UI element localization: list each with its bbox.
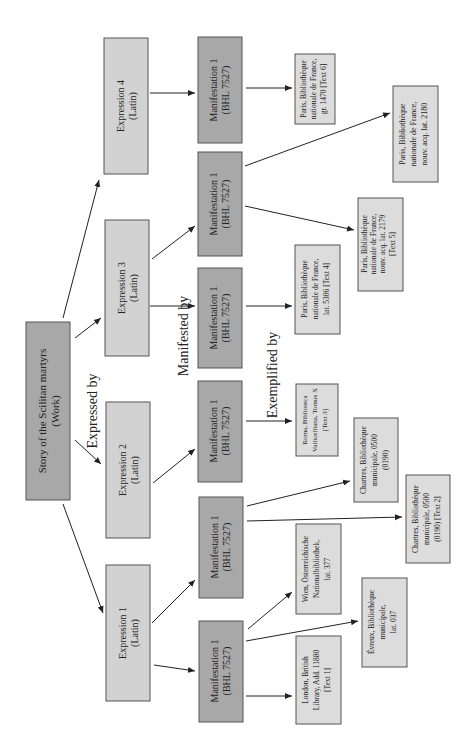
manifestation-label: Manifestation 1: [208, 172, 219, 235]
edge-e1-m1a: [154, 665, 195, 671]
item-node-roma: Roma, Biblioteca Vallicelliana, Tomus X …: [296, 384, 338, 456]
expression-node-4: Expression 4 (Latin): [104, 38, 148, 174]
item-line: (0190) [Text 2]: [433, 496, 442, 542]
item-line: Vallicelliana, Tomus X: [311, 388, 319, 452]
item-line: Nationalbibliothek,: [312, 540, 321, 598]
item-node-paris-5306: Paris, Bibliothèque nationale de France,…: [295, 245, 340, 334]
manifestation-label: Manifestation 1: [209, 639, 220, 702]
item-line: municipale,: [378, 604, 387, 639]
item-line: lat. 5306 [Text 4]: [322, 263, 331, 315]
expression-language: (Latin): [129, 456, 141, 484]
edge-e2-m2: [153, 449, 195, 483]
expression-language: (Latin): [128, 274, 140, 302]
manifestation-bhl: (BHL 7527): [220, 407, 232, 456]
item-line: nationale de France,: [309, 59, 318, 120]
item-line: Paris, Bibliothèque: [398, 103, 407, 165]
item-line: Chartres, Bibliothèque: [411, 484, 420, 553]
item-line: Évreux, Bibliothèque: [366, 589, 376, 654]
manifestation-node-e3a: Manifestation 1 (BHL 7527): [198, 268, 242, 368]
edge-m3b-paris2179: [245, 206, 354, 230]
work-node: Story of the Scilitan martyrs (Work): [26, 322, 70, 500]
manifestation-label: Manifestation 1: [208, 58, 219, 121]
manifestation-label: Manifestation 1: [208, 399, 219, 462]
expression-node-3: Expression 3 (Latin): [105, 220, 149, 356]
expression-label: Expression 1: [117, 607, 128, 659]
item-line: lat. 377: [323, 558, 332, 581]
item-line: (0190): [381, 450, 390, 470]
item-line: nouv. acq. lat. 2180: [420, 103, 429, 166]
item-line: nouv. acq. lat. 2179: [378, 214, 387, 273]
item-line: Paris, Bibliothèque: [300, 260, 309, 318]
edge-work-e1: [63, 504, 103, 613]
expression-node-1: Expression 1 (Latin): [106, 565, 150, 701]
item-line: [Text 5]: [388, 232, 397, 256]
item-line: Library, Add. 11880: [312, 650, 321, 711]
work-type: (Work): [49, 395, 62, 427]
manifestation-label: Manifestation 1: [209, 515, 220, 578]
relation-label-manifested-by: Manifested by: [176, 296, 191, 376]
item-line: Roma, Biblioteca: [301, 395, 309, 445]
expression-label: Expression 3: [116, 262, 127, 314]
item-line: London, British: [301, 656, 310, 704]
manifestation-bhl: (BHL 7527): [220, 66, 232, 115]
manifestation-node-e4: Manifestation 1 (BHL 7527): [198, 37, 242, 143]
item-node-chartres-text2: Chartres, Bibliothèque municipale, 0500 …: [406, 475, 450, 563]
edge-m1b-chartres: [247, 481, 350, 506]
edge-e3-m3a: [152, 226, 195, 259]
expression-label: Expression 4: [115, 80, 126, 132]
frbr-diagram: Expressed by Manifested by Exemplified b…: [0, 0, 474, 756]
expression-language: (Latin): [129, 619, 141, 647]
item-line: nationale de France,: [409, 102, 418, 167]
manifestation-bhl: (BHL 7527): [220, 180, 232, 229]
manifestation-label: Manifestation 1: [208, 286, 219, 349]
relation-label-expressed-by: Expressed by: [85, 373, 100, 448]
item-line: municipale, 0500: [422, 493, 431, 545]
item-line: [Text 3]: [321, 409, 329, 431]
edge-m1a-wien: [248, 592, 292, 629]
expression-node-2: Expression 2 (Latin): [106, 402, 150, 538]
edge-e1-m1b: [152, 580, 195, 623]
item-line: [Text 1]: [323, 668, 332, 692]
expression-language: (Latin): [127, 92, 139, 120]
manifestation-node-e1a: Manifestation 1 (BHL 7527): [199, 621, 243, 722]
manifestation-bhl: (BHL 7527): [221, 647, 233, 696]
item-line: gr. 1470 [Text 6]: [319, 64, 328, 114]
item-line: Paris, Bibliothèque: [299, 60, 308, 118]
item-line: municipale, 0500: [370, 434, 379, 486]
item-node-wien: Wien, Österreichische Nationalbibliothek…: [296, 524, 341, 614]
item-node-paris-2179: Paris, Bibliothèque nationale de France,…: [358, 198, 403, 291]
expression-label: Expression 2: [117, 444, 128, 496]
item-node-paris-1470: Paris, Bibliothèque nationale de France,…: [295, 54, 335, 124]
item-node-london: London, British Library, Add. 11880 [Tex…: [296, 636, 341, 724]
item-node-evreux: Évreux, Bibliothèque municipale, lat. 03…: [362, 578, 407, 667]
item-line: Chartres, Bibliothèque: [359, 425, 368, 494]
item-line: nationale de France,: [311, 259, 320, 320]
manifestation-bhl: (BHL 7527): [220, 294, 232, 343]
edge-m1b-chartres2: [247, 517, 402, 521]
item-node-chartres: Chartres, Bibliothèque municipale, 0500 …: [354, 418, 398, 502]
edge-work-e3: [75, 318, 101, 338]
item-line: lat. 037: [389, 611, 398, 634]
item-line: nationale de France,: [369, 214, 378, 275]
manifestation-node-e1b: Manifestation 1 (BHL 7527): [199, 497, 243, 598]
manifestation-node-e2: Manifestation 1 (BHL 7527): [198, 381, 242, 482]
work-title: Story of the Scilitan martyrs: [36, 349, 48, 474]
item-line: Wien, Österreichische: [301, 535, 310, 602]
item-node-paris-2180: Paris, Bibliothèque nationale de France,…: [393, 86, 438, 182]
manifestation-node-e3b: Manifestation 1 (BHL 7527): [198, 152, 242, 256]
relation-label-exemplified-by: Exemplified by: [265, 332, 280, 419]
item-line: Paris, Bibliothèque: [360, 215, 369, 273]
manifestation-bhl: (BHL 7527): [221, 523, 233, 572]
edge-work-e4: [63, 180, 99, 318]
